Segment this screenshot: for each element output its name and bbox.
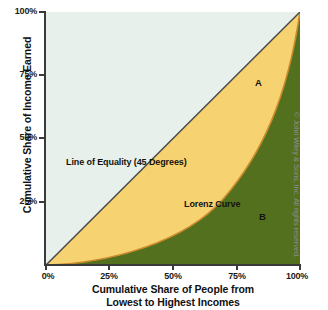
x-tick-mark-75	[236, 266, 238, 270]
copyright-notice: © John Wiley & Sons, Inc. All rights res…	[292, 112, 301, 272]
line-of-equality-label: Line of Equality (45 Degrees)	[66, 157, 187, 167]
x-tick-mark-25	[108, 266, 110, 270]
region-label-b: B	[259, 211, 266, 222]
lorenz-curve-label: Lorenz Curve	[184, 199, 240, 209]
x-tick-label-50: 50%	[164, 271, 181, 281]
x-tick-label-25: 25%	[100, 271, 117, 281]
x-tick-label-100: 100%	[286, 271, 308, 281]
x-axis-title-line1: Cumulative Share of People from	[92, 283, 254, 295]
region-label-a: A	[255, 77, 262, 88]
plot-area: A B Line of Equality (45 Degrees) Lorenz…	[46, 12, 300, 265]
x-tick-label-75: 75%	[228, 271, 245, 281]
x-tick-label-0: 0%	[42, 271, 55, 281]
x-tick-mark-0	[45, 266, 47, 270]
y-tick-mark-50	[39, 137, 44, 139]
chart-canvas	[46, 12, 300, 265]
y-tick-mark-75	[39, 74, 44, 76]
y-tick-mark-25	[39, 201, 44, 203]
x-axis-title-line2: Lowest to Highest Incomes	[46, 296, 300, 309]
y-axis-line	[44, 11, 46, 266]
y-tick-mark-100	[39, 11, 44, 13]
x-tick-mark-50	[172, 266, 174, 270]
x-axis-title: Cumulative Share of People from Lowest t…	[46, 283, 300, 308]
y-axis-title: Cumulative Share of Income Earned	[21, 15, 33, 235]
lorenz-curve-figure: A B Line of Equality (45 Degrees) Lorenz…	[0, 0, 328, 310]
